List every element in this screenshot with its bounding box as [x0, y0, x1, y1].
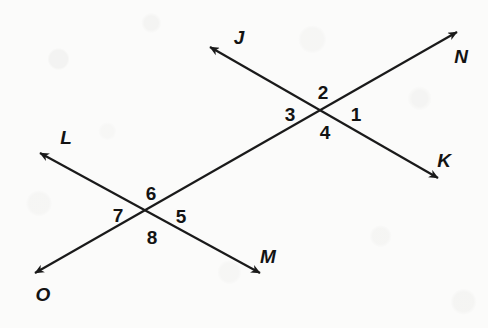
angle-label-5: 5 — [176, 207, 187, 226]
point-label-j: J — [234, 28, 245, 47]
point-label-o: O — [36, 285, 51, 304]
point-label-m: M — [260, 247, 276, 266]
angle-label-6: 6 — [146, 184, 157, 203]
point-label-k: K — [437, 151, 451, 170]
lines-canvas — [0, 0, 488, 328]
point-label-l: L — [60, 128, 72, 147]
geometry-figure: J N K L M O 1 2 3 4 5 6 7 8 — [0, 0, 488, 328]
angle-label-4: 4 — [320, 123, 331, 142]
line-LM — [40, 153, 260, 273]
angle-label-8: 8 — [147, 228, 158, 247]
line-JK — [210, 47, 438, 178]
angle-label-1: 1 — [351, 105, 362, 124]
point-label-n: N — [454, 47, 468, 66]
angle-label-3: 3 — [285, 105, 296, 124]
angle-label-2: 2 — [318, 83, 329, 102]
angle-label-7: 7 — [113, 206, 124, 225]
